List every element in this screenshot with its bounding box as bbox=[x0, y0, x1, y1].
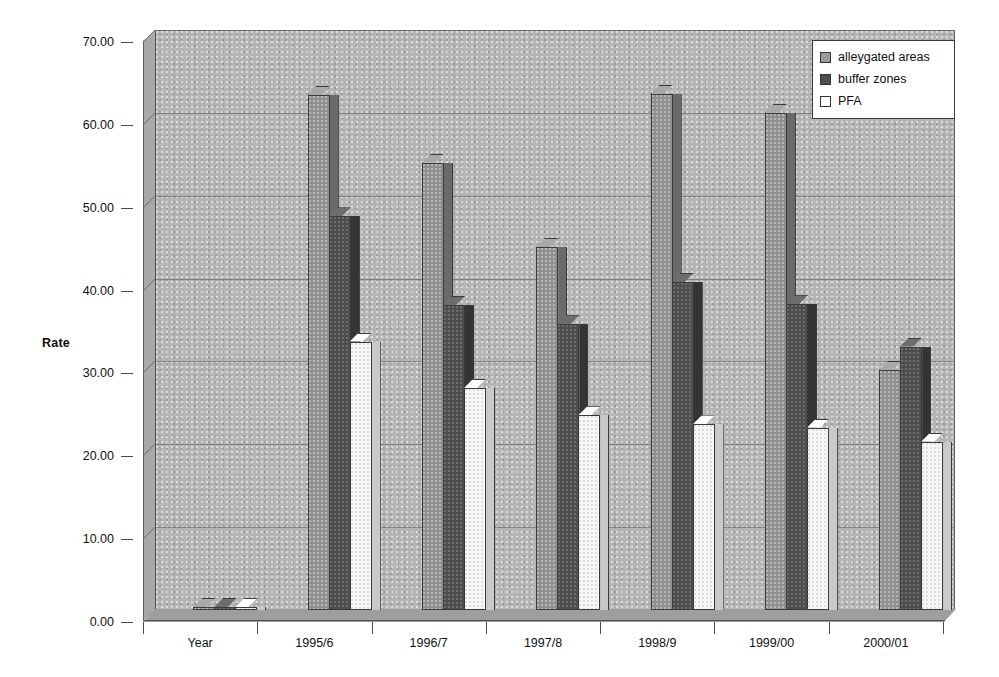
legend-swatch-icon bbox=[820, 96, 831, 107]
bar-face bbox=[536, 247, 558, 610]
gridline bbox=[155, 30, 955, 31]
legend-item-label: buffer zones bbox=[838, 72, 907, 86]
gridline-depth-connector bbox=[143, 196, 155, 208]
bar-buffer-zones-1997-8 bbox=[557, 324, 579, 610]
bar-side bbox=[600, 415, 609, 610]
gridline bbox=[155, 196, 955, 197]
bar-side bbox=[715, 424, 724, 610]
legend-item[interactable]: PFA bbox=[820, 90, 947, 112]
y-axis-tick-mark bbox=[121, 42, 133, 43]
bar-PFA-1996-7 bbox=[464, 388, 486, 610]
bar-face bbox=[651, 94, 673, 610]
y-axis-tick-mark bbox=[121, 622, 133, 623]
plot-area bbox=[143, 30, 955, 630]
gridline-depth-connector bbox=[143, 527, 155, 539]
x-axis-tick-label: 2000/01 bbox=[863, 636, 908, 650]
x-axis-tick-label: 1995/6 bbox=[295, 636, 333, 650]
y-axis-tick-label: 0.00 bbox=[56, 615, 114, 629]
legend-item-label: PFA bbox=[838, 94, 862, 108]
bar-side bbox=[372, 342, 381, 610]
x-axis-tick-mark bbox=[943, 622, 944, 634]
bar-face bbox=[350, 342, 372, 610]
x-axis-tick-mark bbox=[829, 622, 830, 634]
y-axis-tick-label: 50.00 bbox=[56, 201, 114, 215]
x-axis-tick-label: 1996/7 bbox=[410, 636, 448, 650]
x-axis-tick-mark bbox=[143, 622, 144, 634]
y-axis-tick-label: 60.00 bbox=[56, 118, 114, 132]
bar-chart: Rate 70.0060.0050.0040.0030.0020.0010.00… bbox=[0, 0, 999, 677]
x-axis-tick-mark bbox=[257, 622, 258, 634]
bar-alleygated-areas-1997-8 bbox=[536, 247, 558, 610]
bar-face bbox=[879, 370, 901, 610]
bar-face bbox=[557, 324, 579, 610]
bar-face bbox=[921, 442, 943, 610]
x-axis-tick-mark bbox=[714, 622, 715, 634]
y-axis-tick-mark bbox=[121, 208, 133, 209]
x-axis-tick-label: 1998/9 bbox=[638, 636, 676, 650]
gridline-depth-connector bbox=[143, 30, 155, 42]
gridline-depth-connector bbox=[143, 279, 155, 291]
bar-face bbox=[214, 607, 236, 610]
x-axis-tick-label: Year bbox=[188, 636, 213, 650]
bar-face bbox=[578, 415, 600, 610]
x-axis-tick-mark bbox=[600, 622, 601, 634]
x-axis-tick-mark bbox=[372, 622, 373, 634]
bar-side bbox=[829, 428, 838, 610]
bar-alleygated-areas-1996-7 bbox=[422, 163, 444, 610]
legend-swatch-icon bbox=[820, 74, 831, 85]
y-axis-tick-mark bbox=[121, 291, 133, 292]
y-axis-tick-mark bbox=[121, 539, 133, 540]
bar-side bbox=[486, 388, 495, 610]
y-axis-tick-label: 10.00 bbox=[56, 532, 114, 546]
bar-buffer-zones-1999-00 bbox=[786, 304, 808, 610]
bar-buffer-zones-1995-6 bbox=[329, 216, 351, 610]
y-axis-tick-label: 40.00 bbox=[56, 284, 114, 298]
bar-alleygated-areas-Year bbox=[193, 607, 215, 610]
y-axis-tick-mark bbox=[121, 373, 133, 374]
x-axis-tick-label: 1999/00 bbox=[749, 636, 794, 650]
y-axis-tick-label: 20.00 bbox=[56, 449, 114, 463]
y-axis-tick-mark bbox=[121, 456, 133, 457]
bar-face bbox=[693, 424, 715, 610]
bar-PFA-1995-6 bbox=[350, 342, 372, 610]
bar-face bbox=[193, 607, 215, 610]
bar-buffer-zones-1996-7 bbox=[443, 305, 465, 610]
bar-buffer-zones-Year bbox=[214, 607, 236, 610]
bar-face bbox=[422, 163, 444, 610]
gridline-depth-connector bbox=[143, 361, 155, 373]
x-axis-tick-mark bbox=[486, 622, 487, 634]
bar-PFA-1997-8 bbox=[578, 415, 600, 610]
legend-item[interactable]: alleygated areas bbox=[820, 46, 947, 68]
bar-face bbox=[807, 428, 829, 610]
plot-back-left-edge bbox=[155, 30, 156, 610]
x-axis-tick-label: 1997/8 bbox=[524, 636, 562, 650]
bar-face bbox=[464, 388, 486, 610]
legend-item-label: alleygated areas bbox=[838, 50, 930, 64]
bar-face bbox=[443, 305, 465, 610]
chart-legend: alleygated areas buffer zones PFA bbox=[812, 40, 955, 119]
y-axis-tick-mark bbox=[121, 125, 133, 126]
bar-PFA-1998-9 bbox=[693, 424, 715, 610]
bar-PFA-2000-01 bbox=[921, 442, 943, 610]
bar-alleygated-areas-2000-01 bbox=[879, 370, 901, 610]
legend-swatch-icon bbox=[820, 52, 831, 63]
gridline-depth-connector bbox=[143, 113, 155, 125]
bar-side bbox=[943, 442, 952, 610]
y-axis-title: Rate bbox=[42, 336, 70, 350]
bar-alleygated-areas-1998-9 bbox=[651, 94, 673, 610]
bar-side bbox=[257, 607, 266, 610]
bar-face bbox=[900, 347, 922, 610]
bar-buffer-zones-2000-01 bbox=[900, 347, 922, 610]
bar-face bbox=[672, 282, 694, 610]
gridline-depth-connector bbox=[143, 444, 155, 456]
bar-PFA-Year bbox=[235, 607, 257, 610]
bar-buffer-zones-1998-9 bbox=[672, 282, 694, 610]
bar-PFA-1999-00 bbox=[807, 428, 829, 610]
y-axis-tick-label: 70.00 bbox=[56, 35, 114, 49]
bar-alleygated-areas-1999-00 bbox=[765, 113, 787, 610]
bar-face bbox=[786, 304, 808, 610]
legend-item[interactable]: buffer zones bbox=[820, 68, 947, 90]
bar-alleygated-areas-1995-6 bbox=[308, 95, 330, 610]
bar-face bbox=[235, 607, 257, 610]
bar-face bbox=[765, 113, 787, 610]
